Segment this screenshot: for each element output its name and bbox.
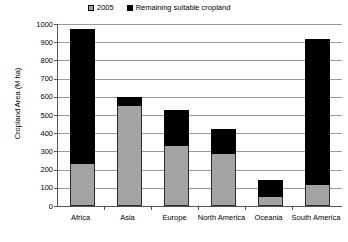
legend-item-2005: 2005 (88, 3, 114, 12)
ytick-label-500: 500 (27, 111, 53, 120)
ytick-label-600: 600 (27, 92, 53, 101)
ytick-label-300: 300 (27, 147, 53, 156)
ytick-label-100: 100 (27, 183, 53, 192)
chart-legend: 2005 Remaining suitable cropland (88, 3, 230, 12)
bar-segment-2005-asia (117, 106, 142, 206)
legend-label-2005: 2005 (97, 3, 114, 12)
bar-segment-2005-south-america (305, 185, 330, 206)
bar-segment-2005-north-america (211, 154, 236, 206)
ytick-label-0: 0 (27, 202, 53, 211)
y-axis-title: Cropland Area (M ha) (13, 44, 22, 164)
xtick-mark-2 (151, 206, 152, 210)
xtick-mark-4 (245, 206, 246, 210)
ytick-label-400: 400 (27, 129, 53, 138)
plot-area: 1000 900 800 700 600 500 400 300 200 100… (57, 24, 342, 207)
gray-square-swatch-icon (88, 5, 94, 11)
bar-group-africa (70, 29, 95, 206)
bar-segment-2005-europe (164, 146, 189, 206)
xtick-mark-3 (198, 206, 199, 210)
bar-group-oceania (258, 180, 283, 206)
bar-series-container (58, 24, 342, 206)
xtick-label-oceania: Oceania (245, 213, 292, 222)
xtick-label-north-america: North America (196, 213, 247, 222)
xtick-mark-1 (104, 206, 105, 210)
legend-item-remaining-suitable-cropland: Remaining suitable cropland (127, 3, 231, 12)
xtick-mark-5 (292, 206, 293, 210)
ytick-label-800: 800 (27, 56, 53, 65)
ytick-label-200: 200 (27, 165, 53, 174)
bar-segment-remaining-asia (117, 97, 142, 106)
bar-segment-remaining-oceania (258, 180, 283, 197)
bar-segment-remaining-africa (70, 29, 95, 165)
xtick-label-asia: Asia (104, 213, 151, 222)
ytick-label-700: 700 (27, 74, 53, 83)
ytick-label-900: 900 (27, 38, 53, 47)
bar-segment-remaining-south-america (305, 39, 330, 186)
bar-segment-remaining-europe (164, 110, 189, 145)
ytick-label-1000: 1000 (27, 20, 53, 29)
bar-group-asia (117, 97, 142, 206)
ytick-mark-0 (54, 206, 58, 207)
xtick-label-africa: Africa (57, 213, 104, 222)
bar-segment-2005-africa (70, 164, 95, 206)
bar-group-south-america (305, 39, 330, 206)
bar-segment-remaining-north-america (211, 129, 236, 154)
legend-label-remaining-suitable-cropland: Remaining suitable cropland (136, 3, 231, 12)
cropland-area-bar-chart: 2005 Remaining suitable cropland Croplan… (0, 0, 348, 242)
bar-segment-2005-oceania (258, 197, 283, 206)
xtick-label-south-america: South America (290, 213, 342, 222)
xtick-label-europe: Europe (151, 213, 198, 222)
bar-group-north-america (211, 129, 236, 206)
black-square-swatch-icon (127, 5, 133, 11)
bar-group-europe (164, 110, 189, 206)
